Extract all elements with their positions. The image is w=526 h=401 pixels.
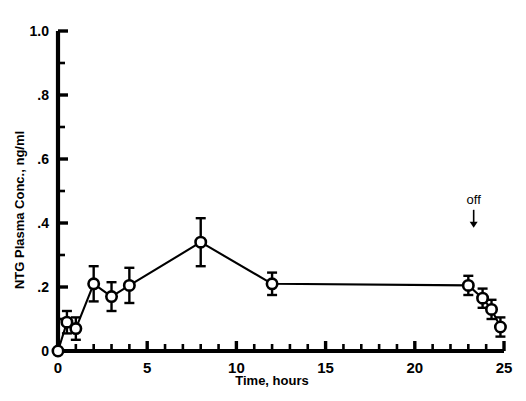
data-point-marker	[267, 279, 277, 289]
data-point-marker	[463, 280, 473, 290]
data-point-marker	[71, 323, 81, 333]
annotation-off-label: off	[467, 192, 482, 207]
data-point-marker	[196, 237, 206, 247]
x-axis-title: Time, hours	[235, 373, 308, 388]
data-point-marker	[53, 346, 63, 356]
y-axis-tick-label: .4	[37, 215, 49, 231]
annotation-off: off	[467, 192, 482, 228]
y-axis-tick-label: .6	[37, 151, 49, 167]
data-point-marker	[495, 322, 505, 332]
x-axis-tick-label: 25	[496, 359, 513, 376]
y-axis-title: NTG Plasma Conc., ng/ml	[12, 131, 27, 289]
plot-canvas: NTG Plasma Conc., ng/ml Time, hours 0.2.…	[0, 0, 526, 401]
data-point-marker	[477, 293, 487, 303]
data-line	[58, 242, 500, 351]
data-point-marker	[88, 279, 98, 289]
chart-figure: NTG Plasma Conc., ng/ml Time, hours 0.2.…	[0, 0, 526, 401]
data-point-marker	[106, 291, 116, 301]
x-axis-tick-label: 15	[317, 359, 334, 376]
x-axis-tick-label: 10	[228, 359, 245, 376]
x-axis-tick-label: 20	[406, 359, 423, 376]
y-axis-tick-label: 1.0	[30, 23, 50, 39]
x-axis-tick-label: 5	[143, 359, 151, 376]
y-axis-tick-label: .2	[37, 279, 49, 295]
annotation-off-arrowhead-icon	[470, 222, 478, 228]
y-axis-tick-label: 0	[41, 343, 49, 359]
x-axis-tick-label: 0	[54, 359, 62, 376]
plot-area: 0.2.4.6.81.00510152025	[30, 23, 513, 376]
y-axis-tick-label: .8	[37, 87, 49, 103]
data-point-marker	[124, 280, 134, 290]
data-point-marker	[486, 304, 496, 314]
